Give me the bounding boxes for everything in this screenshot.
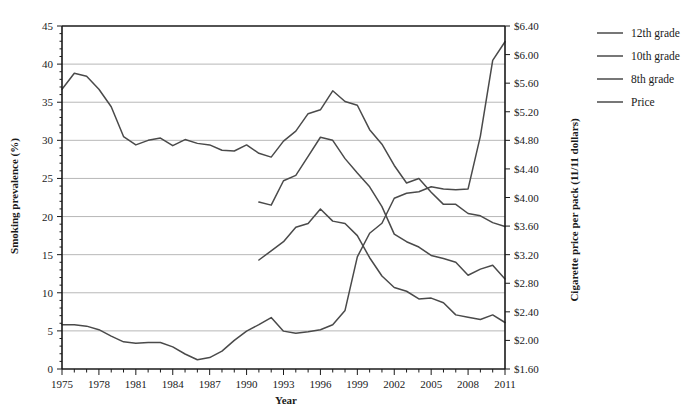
y-tick-label: 10 — [42, 287, 54, 299]
y-tick-label: 45 — [42, 20, 54, 32]
x-tick-label: 2011 — [494, 378, 516, 390]
y2-tick-label: $3.20 — [514, 249, 539, 261]
y-tick-label: 0 — [48, 363, 54, 375]
x-tick-label: 1990 — [236, 378, 259, 390]
y2-tick-label: $1.60 — [514, 363, 539, 375]
y2-tick-label: $2.00 — [514, 334, 539, 346]
y-tick-label: 40 — [42, 58, 54, 70]
x-tick-label: 1999 — [346, 378, 369, 390]
y2-tick-label: $4.00 — [514, 192, 539, 204]
x-tick-label: 2005 — [420, 378, 443, 390]
series-line-price — [62, 42, 505, 360]
y2-tick-label: $5.20 — [514, 106, 539, 118]
y-tick-label: 5 — [48, 325, 54, 337]
x-tick-label: 2008 — [457, 378, 480, 390]
y2-tick-label: $6.40 — [514, 20, 539, 32]
x-tick-label: 1987 — [199, 378, 222, 390]
series-line-10th-grade — [259, 137, 505, 279]
x-tick-label: 1996 — [309, 378, 332, 390]
y2-tick-label: $4.80 — [514, 134, 539, 146]
legend-label-12th-grade: 12th grade — [631, 27, 680, 40]
legend: 12th grade10th grade8th gradePrice — [597, 27, 680, 108]
gridlines — [62, 64, 505, 331]
y-tick-label: 25 — [42, 172, 54, 184]
x-tick-label: 1978 — [88, 378, 111, 390]
series-lines — [62, 42, 505, 360]
legend-label-8th-grade: 8th grade — [631, 73, 674, 86]
x-tick-label: 1993 — [273, 378, 296, 390]
y-tick-label: 15 — [42, 249, 54, 261]
y2-tick-label: $2.40 — [514, 306, 539, 318]
y-axis-title: Smoking prevalence (%) — [8, 138, 21, 254]
y-tick-label: 35 — [42, 96, 54, 108]
y2-tick-label: $3.60 — [514, 220, 539, 232]
legend-label-price: Price — [631, 96, 655, 108]
y-axis-tick-labels: 051015202530354045 — [42, 20, 54, 375]
series-line-8th-grade — [259, 209, 505, 323]
y2-tick-label: $2.80 — [514, 277, 539, 289]
dual-axis-line-chart: 1975197819811984198719901993199619992002… — [0, 0, 691, 417]
y2-tick-label: $5.60 — [514, 77, 539, 89]
legend-label-10th-grade: 10th grade — [631, 50, 680, 63]
x-axis-tick-labels: 1975197819811984198719901993199619992002… — [51, 378, 516, 390]
y2-axis-title: Cigarette price per pack (11/11 dollars) — [568, 118, 581, 302]
x-tick-label: 1975 — [51, 378, 74, 390]
axes — [62, 26, 505, 369]
y2-tick-label: $4.40 — [514, 163, 539, 175]
y-tick-label: 20 — [42, 211, 54, 223]
y-tick-label: 30 — [42, 134, 54, 146]
x-axis-title: Year — [275, 394, 297, 406]
y2-tick-label: $6.00 — [514, 49, 539, 61]
y2-axis-tick-labels: $1.60$2.00$2.40$2.80$3.20$3.60$4.00$4.40… — [514, 20, 539, 375]
tick-marks — [57, 26, 510, 375]
series-line-12th-grade — [62, 73, 505, 226]
x-tick-label: 1984 — [162, 378, 185, 390]
x-tick-label: 1981 — [125, 378, 147, 390]
x-tick-label: 2002 — [383, 378, 405, 390]
